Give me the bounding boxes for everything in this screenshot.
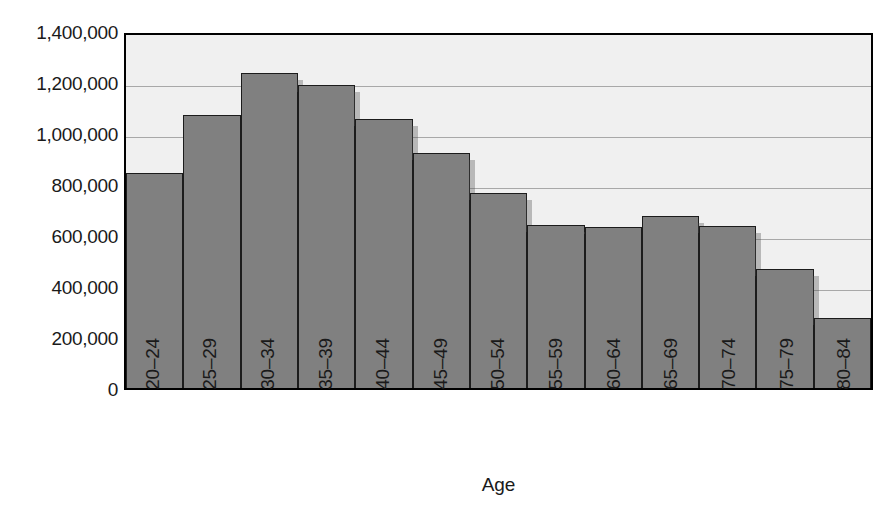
x-tick-label: 80–84 [832, 338, 856, 416]
x-tick-cell: 50–54 [470, 392, 528, 470]
y-tick-label: 1,200,000 [10, 74, 118, 93]
x-tick-cell: 55–59 [527, 392, 585, 470]
bar-chart: Number of licensed drivers 0200,000400,0… [0, 0, 891, 512]
x-tick-label: 45–49 [429, 338, 453, 416]
y-tick-label: 200,000 [10, 329, 118, 348]
x-tick-cell: 60–64 [585, 392, 643, 470]
x-tick-label: 60–64 [602, 338, 626, 416]
x-tick-cell: 30–34 [239, 392, 297, 470]
x-tick-label: 40–44 [371, 338, 395, 416]
y-tick-label: 1,400,000 [10, 23, 118, 42]
plot-inner [126, 35, 871, 388]
x-tick-cell: 75–79 [758, 392, 816, 470]
x-tick-cell: 40–44 [354, 392, 412, 470]
x-tick-label: 65–69 [659, 338, 683, 416]
y-tick-label: 400,000 [10, 278, 118, 297]
x-tick-cell: 80–84 [815, 392, 873, 470]
bar-series [126, 35, 871, 388]
x-tick-cell: 65–69 [642, 392, 700, 470]
x-tick-label: 35–39 [314, 338, 338, 416]
x-tick-cell: 20–24 [124, 392, 182, 470]
x-tick-cell: 35–39 [297, 392, 355, 470]
x-tick-label: 25–29 [198, 338, 222, 416]
x-tick-cell: 25–29 [182, 392, 240, 470]
x-tick-label: 20–24 [141, 338, 165, 416]
y-axis-tick-labels: 0200,000400,000600,000800,0001,000,0001,… [8, 0, 118, 512]
y-tick-label: 800,000 [10, 176, 118, 195]
y-tick-label: 1,000,000 [10, 125, 118, 144]
x-tick-cell: 45–49 [412, 392, 470, 470]
x-tick-label: 55–59 [544, 338, 568, 416]
y-tick-label: 0 [10, 380, 118, 399]
x-tick-label: 75–79 [775, 338, 799, 416]
plot-area [124, 33, 873, 390]
x-tick-label: 70–74 [717, 338, 741, 416]
x-tick-cell: 70–74 [700, 392, 758, 470]
x-tick-label: 50–54 [486, 338, 510, 416]
y-tick-label: 600,000 [10, 227, 118, 246]
x-axis-title: Age [124, 474, 873, 496]
x-axis-tick-labels: 20–2425–2930–3435–3940–4445–4950–5455–59… [124, 392, 873, 470]
x-tick-label: 30–34 [256, 338, 280, 416]
